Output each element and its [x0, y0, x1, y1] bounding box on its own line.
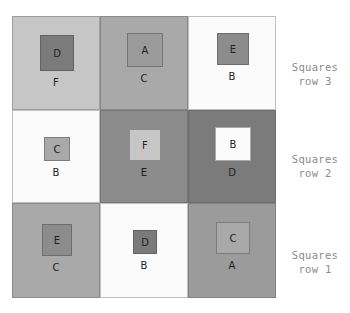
square-inner: C: [44, 137, 70, 161]
outer-tone-label: F: [13, 77, 99, 88]
square-outer-r3-c3: EB: [188, 16, 276, 110]
square-inner: D: [133, 230, 157, 254]
square-inner: E: [42, 224, 72, 256]
square-outer-r2-c1: CB: [12, 110, 100, 203]
square-outer-r1-c3: CA: [188, 203, 276, 298]
inner-tone-label: F: [142, 140, 148, 151]
square-outer-r2-c3: BD: [188, 110, 276, 203]
outer-tone-label: A: [189, 260, 275, 271]
row-label-line2: row 1: [282, 262, 348, 276]
inner-tone-label: A: [142, 45, 149, 56]
row-label-line1: Squares: [282, 248, 348, 262]
square-inner: E: [217, 33, 249, 65]
inner-tone-label: C: [230, 233, 237, 244]
outer-tone-label: B: [189, 71, 275, 82]
square-inner: D: [40, 35, 74, 71]
row-label-line2: row 2: [282, 166, 348, 180]
inner-tone-label: D: [141, 237, 149, 248]
outer-tone-label: B: [13, 167, 99, 178]
squares-grid: DFACEBCBFEBDECDBCA: [12, 16, 276, 298]
inner-tone-label: D: [53, 48, 61, 59]
outer-tone-label: B: [101, 260, 187, 271]
row-label-2: Squares row 2: [282, 152, 348, 180]
square-inner: A: [127, 33, 163, 67]
outer-tone-label: C: [101, 73, 187, 84]
inner-tone-label: E: [54, 235, 60, 246]
row-label-3: Squares row 3: [282, 60, 348, 88]
row-label-line2: row 3: [282, 74, 348, 88]
row-label-1: Squares row 1: [282, 248, 348, 276]
square-outer-r1-c2: DB: [100, 203, 188, 298]
square-outer-r3-c1: DF: [12, 16, 100, 110]
square-outer-r2-c2: FE: [100, 110, 188, 203]
square-outer-r1-c1: EC: [12, 203, 100, 298]
outer-tone-label: E: [101, 167, 187, 178]
square-outer-r3-c2: AC: [100, 16, 188, 110]
inner-tone-label: B: [230, 139, 237, 150]
row-label-line1: Squares: [282, 60, 348, 74]
inner-tone-label: C: [54, 144, 61, 155]
outer-tone-label: C: [13, 262, 99, 273]
row-label-line1: Squares: [282, 152, 348, 166]
square-inner: F: [129, 129, 161, 161]
outer-tone-label: D: [189, 167, 275, 178]
square-inner: B: [215, 127, 251, 161]
square-inner: C: [216, 222, 250, 254]
inner-tone-label: E: [230, 44, 236, 55]
